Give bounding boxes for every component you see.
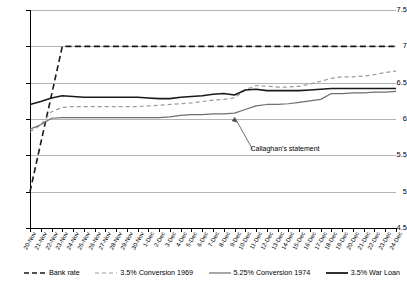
legend-swatch-conversion-1969: [95, 269, 117, 277]
legend-item-conversion-1969: 3.5% Conversion 1969: [95, 269, 193, 277]
legend-label-bank-rate: Bank rate: [49, 269, 80, 277]
legend-item-conversion-1974: 5.25% Conversion 1974: [209, 269, 311, 277]
legend-swatch-conversion-1974: [209, 269, 231, 277]
legend-swatch-bank-rate: [24, 269, 46, 277]
legend-item-war-loan: 3.5% War Loan: [326, 269, 400, 277]
legend-label-conversion-1969: 3.5% Conversion 1969: [120, 269, 193, 277]
legend-label-war-loan: 3.5% War Loan: [351, 269, 400, 277]
annotation-callaghans-statement: Callaghan's statement: [251, 145, 320, 153]
annotation-arrow: [30, 10, 396, 228]
line-chart: 4.555.566.577.5 20-Nov21-Nov22-Nov23-Nov…: [0, 0, 407, 286]
chart-legend: Bank rate 3.5% Conversion 1969 5.25% Con…: [24, 266, 400, 280]
legend-swatch-war-loan: [326, 269, 348, 277]
legend-label-conversion-1974: 5.25% Conversion 1974: [234, 269, 311, 277]
legend-item-bank-rate: Bank rate: [24, 269, 80, 277]
